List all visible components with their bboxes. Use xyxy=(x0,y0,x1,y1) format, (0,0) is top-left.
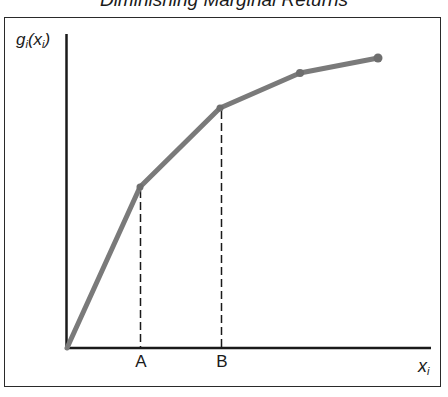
x-axis-label: xi xyxy=(418,356,429,377)
x-tick-label-a: A xyxy=(131,352,151,372)
plot-area xyxy=(0,0,448,397)
y-axis-label: gi(xi) xyxy=(16,30,50,50)
data-point-a xyxy=(137,184,144,191)
data-point-4 xyxy=(374,54,383,63)
data-point-b xyxy=(217,105,224,112)
data-point-3 xyxy=(296,69,304,77)
production-curve xyxy=(67,58,378,348)
x-tick-label-b: B xyxy=(212,352,232,372)
